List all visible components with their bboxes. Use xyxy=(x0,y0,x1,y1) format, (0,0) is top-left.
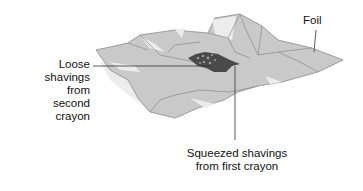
label-line: Squeezed shavings xyxy=(162,147,312,160)
label-line: crayon xyxy=(38,110,90,123)
loose-shavings-label: Loose shavings from second crayon xyxy=(38,58,90,123)
foil-label: Foil xyxy=(303,14,322,27)
label-line: from second xyxy=(38,84,90,110)
label-line: shavings xyxy=(38,71,90,84)
label-line: Loose xyxy=(38,58,90,71)
label-line: from first crayon xyxy=(162,160,312,173)
foil-leader-line xyxy=(314,30,316,52)
squeezed-shavings-label: Squeezed shavings from first crayon xyxy=(162,147,312,173)
